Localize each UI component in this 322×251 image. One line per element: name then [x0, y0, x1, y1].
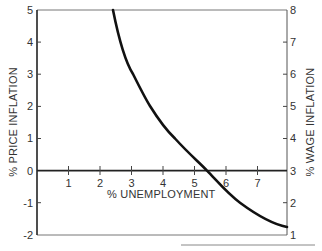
phillips-curve-chart: 1 2 3 4 5 6 7 5 4 3 2 1 0 -1 -2 8 7 6 5 … [0, 0, 322, 251]
svg-text:2: 2 [27, 100, 33, 112]
svg-text:7: 7 [254, 177, 260, 189]
svg-text:-1: -1 [23, 197, 33, 209]
right-y-tick-labels: 8 7 6 5 4 3 2 1 [290, 4, 296, 241]
svg-text:5: 5 [27, 4, 33, 16]
svg-text:5: 5 [290, 100, 296, 112]
svg-text:4: 4 [290, 132, 296, 144]
svg-text:3: 3 [27, 68, 33, 80]
svg-text:2: 2 [97, 177, 103, 189]
svg-text:8: 8 [290, 4, 296, 16]
left-y-tick-labels: 5 4 3 2 1 0 -1 -2 [23, 4, 33, 241]
svg-text:1: 1 [65, 177, 71, 189]
svg-text:7: 7 [290, 36, 296, 48]
right-y-ticks [283, 42, 287, 203]
svg-text:0: 0 [27, 165, 33, 177]
svg-text:-2: -2 [23, 229, 33, 241]
x-axis-title: % UNEMPLOYMENT [107, 188, 216, 200]
y-left-axis-title: % PRICE INFLATION [7, 67, 19, 177]
svg-text:2: 2 [290, 197, 296, 209]
svg-text:3: 3 [290, 165, 296, 177]
svg-text:1: 1 [290, 229, 296, 241]
svg-text:1: 1 [27, 132, 33, 144]
svg-text:6: 6 [290, 68, 296, 80]
svg-text:4: 4 [27, 36, 33, 48]
y-right-axis-title: % WAGE INFLATION [304, 68, 316, 177]
